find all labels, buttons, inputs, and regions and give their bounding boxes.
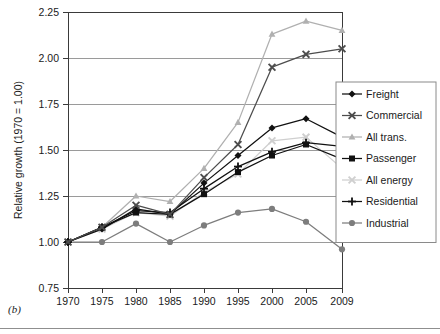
x-tick-label-1990: 1990	[192, 295, 216, 307]
data-point-marker	[235, 141, 242, 148]
data-point-marker	[303, 18, 310, 24]
data-point-marker	[339, 246, 345, 252]
data-series-group	[64, 18, 346, 253]
series-line	[68, 209, 342, 249]
data-point-marker	[133, 192, 140, 198]
axis-ticks	[63, 13, 343, 294]
gridlines	[68, 13, 342, 289]
data-point-marker	[349, 220, 355, 226]
legend-label: Commercial	[366, 109, 422, 121]
x-tick-label-1995: 1995	[226, 295, 250, 307]
x-tick-label-1975: 1975	[90, 295, 114, 307]
figure-panel: 0.751.001.251.501.752.002.25 19701975198…	[0, 0, 440, 334]
data-point-marker	[269, 206, 275, 212]
line-chart: 0.751.001.251.501.752.002.25 19701975198…	[0, 0, 440, 334]
data-point-marker	[167, 239, 173, 245]
legend-label: All trans.	[366, 131, 407, 143]
x-tick-label-1970: 1970	[56, 295, 80, 307]
y-axis-title: Relative growth (1970 = 1.00)	[12, 81, 24, 219]
data-point-marker	[349, 156, 355, 162]
y-tick-label-0.75: 0.75	[39, 282, 60, 294]
chart-legend: FreightCommercialAll trans.PassengerAll …	[336, 82, 436, 243]
x-axis-tick-labels: 197019751980198519901995200020052009	[56, 295, 354, 307]
y-tick-label-2.00: 2.00	[39, 52, 60, 64]
legend-label: Freight	[366, 88, 399, 100]
series-line	[68, 21, 342, 242]
data-point-marker	[235, 119, 242, 125]
data-point-marker	[269, 64, 276, 71]
y-tick-label-1.00: 1.00	[39, 236, 60, 248]
series-passenger	[65, 141, 345, 245]
y-axis-tick-labels: 0.751.001.251.501.752.002.25	[39, 6, 60, 294]
x-tick-label-2000: 2000	[260, 295, 284, 307]
legend-label: Passenger	[366, 152, 417, 164]
x-tick-label-2005: 2005	[294, 295, 318, 307]
x-tick-label-1980: 1980	[124, 295, 148, 307]
data-point-marker	[303, 115, 310, 122]
y-tick-label-1.75: 1.75	[39, 98, 60, 110]
data-point-marker	[235, 209, 241, 215]
data-point-marker	[303, 219, 309, 225]
x-tick-label-1985: 1985	[158, 295, 182, 307]
x-tick-label-2009: 2009	[330, 295, 354, 307]
data-point-marker	[201, 222, 207, 228]
series-line	[68, 49, 342, 242]
y-tick-label-2.25: 2.25	[39, 6, 60, 18]
panel-label: (b)	[8, 303, 21, 316]
legend-label: All energy	[366, 174, 413, 186]
legend-label: Industrial	[366, 217, 409, 229]
legend-label: Residential	[366, 195, 418, 207]
y-tick-label-1.25: 1.25	[39, 190, 60, 202]
series-industrial	[65, 206, 345, 253]
data-point-marker	[133, 221, 139, 227]
y-tick-label-1.50: 1.50	[39, 144, 60, 156]
data-point-marker	[99, 239, 105, 245]
